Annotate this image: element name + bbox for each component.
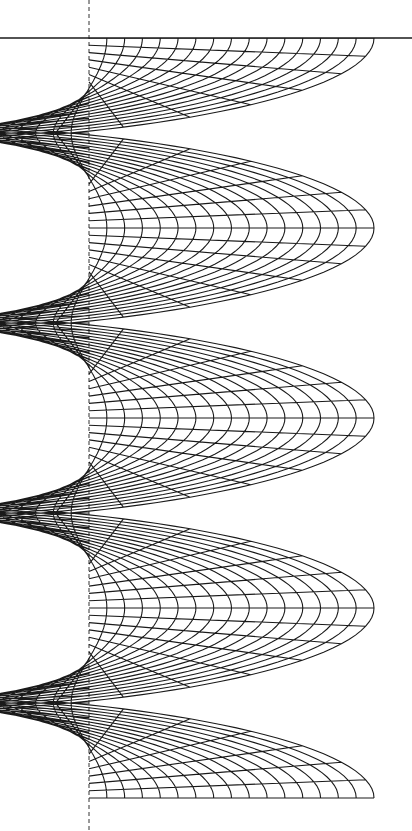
mesh-lines (0, 38, 374, 798)
wireframe-canvas (0, 0, 412, 831)
helicoid-figure (0, 0, 412, 831)
surface-mesh (0, 38, 374, 798)
